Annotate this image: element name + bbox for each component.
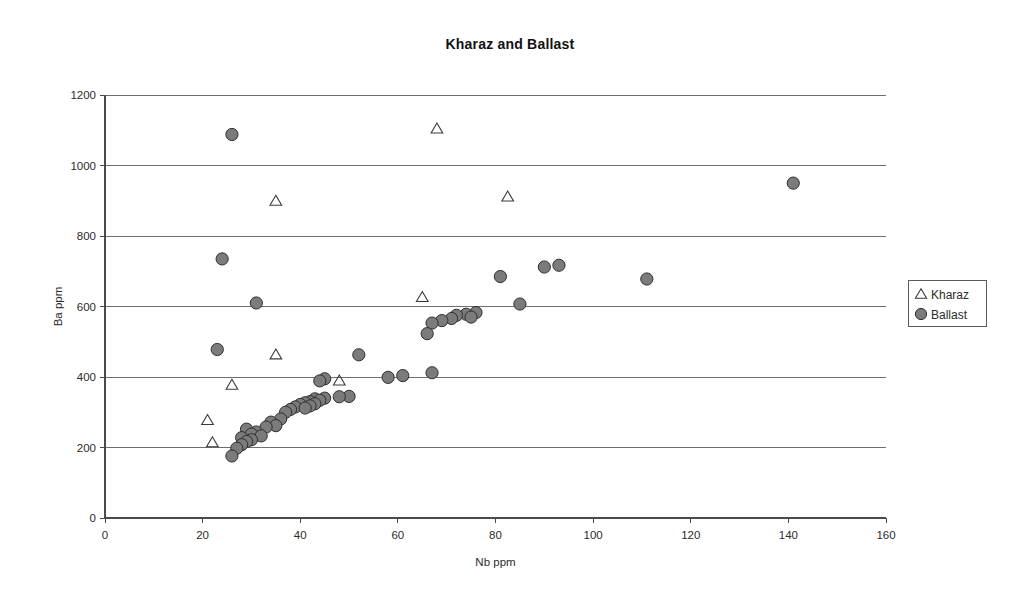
data-point-ballast-0 xyxy=(226,128,238,140)
data-point-kharaz-7 xyxy=(202,415,214,425)
data-point-ballast-3 xyxy=(553,259,565,271)
x-axis-ticks: 020406080100120140160 xyxy=(102,518,896,541)
data-point-ballast-1 xyxy=(787,177,799,189)
data-point-ballast-4 xyxy=(538,261,550,273)
y-tick-label-200: 200 xyxy=(77,442,96,454)
data-point-ballast-20 xyxy=(397,369,409,381)
x-tick-label-0: 0 xyxy=(102,529,108,541)
data-point-kharaz-4 xyxy=(270,349,282,359)
y-tick-label-600: 600 xyxy=(77,301,96,313)
x-tick-label-120: 120 xyxy=(681,529,700,541)
data-point-ballast-25 xyxy=(333,391,345,403)
x-tick-label-100: 100 xyxy=(584,529,603,541)
data-point-kharaz-2 xyxy=(502,191,514,201)
y-tick-label-400: 400 xyxy=(77,371,96,383)
data-point-ballast-19 xyxy=(426,367,438,379)
legend-label-ballast[interactable]: Ballast xyxy=(931,308,968,322)
data-point-ballast-7 xyxy=(250,297,262,309)
series-ballast-points xyxy=(211,128,799,462)
axis-titles-group: Nb ppmBa ppm xyxy=(52,287,516,568)
x-tick-label-140: 140 xyxy=(779,529,798,541)
series-kharaz-points xyxy=(202,123,514,447)
x-tick-label-160: 160 xyxy=(876,529,895,541)
chart-legend[interactable]: KharazBallast xyxy=(908,280,986,326)
data-point-kharaz-8 xyxy=(207,437,219,447)
data-point-ballast-8 xyxy=(514,298,526,310)
gridlines-group xyxy=(105,95,886,448)
x-tick-label-20: 20 xyxy=(196,529,209,541)
x-tick-label-80: 80 xyxy=(489,529,502,541)
legend-label-kharaz[interactable]: Kharaz xyxy=(931,288,969,302)
data-point-kharaz-1 xyxy=(270,195,282,205)
y-axis-title: Ba ppm xyxy=(52,287,64,327)
data-point-ballast-5 xyxy=(494,270,506,282)
data-point-kharaz-6 xyxy=(226,379,238,389)
data-point-ballast-21 xyxy=(382,371,394,383)
x-tick-label-60: 60 xyxy=(391,529,404,541)
data-point-ballast-12 xyxy=(465,311,477,323)
x-axis-title: Nb ppm xyxy=(475,556,515,568)
y-tick-label-1000: 1000 xyxy=(70,160,96,172)
y-tick-label-0: 0 xyxy=(90,512,96,524)
data-point-ballast-6 xyxy=(641,273,653,285)
scatter-plot-svg: 020406080100120140160 020040060080010001… xyxy=(0,0,1020,601)
data-point-kharaz-3 xyxy=(416,292,428,302)
data-point-ballast-18 xyxy=(353,349,365,361)
x-tick-label-40: 40 xyxy=(294,529,307,541)
y-tick-label-800: 800 xyxy=(77,230,96,242)
y-axis-ticks: 020040060080010001200 xyxy=(70,89,105,524)
data-point-kharaz-0 xyxy=(431,123,443,133)
data-point-ballast-35 xyxy=(299,402,311,414)
chart-container: Kharaz and Ballast 020406080100120140160… xyxy=(0,0,1020,601)
legend-marker-ballast-icon xyxy=(915,308,926,319)
data-point-ballast-17 xyxy=(211,343,223,355)
data-point-ballast-16 xyxy=(421,328,433,340)
y-tick-label-1200: 1200 xyxy=(70,89,96,101)
data-point-ballast-2 xyxy=(216,253,228,265)
data-point-ballast-51 xyxy=(226,450,238,462)
data-point-ballast-23 xyxy=(314,375,326,387)
